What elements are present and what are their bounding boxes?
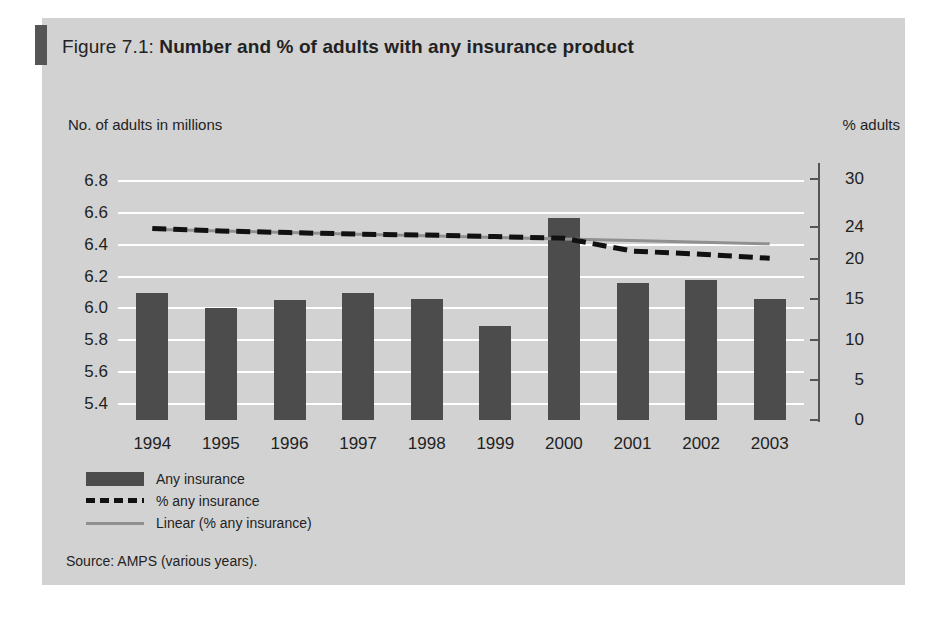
right-axis-tick-mark bbox=[810, 339, 818, 341]
legend-label: % any insurance bbox=[156, 493, 260, 509]
legend-swatch bbox=[86, 498, 144, 503]
left-axis-tick-label: 6.6 bbox=[84, 203, 108, 223]
x-axis-tick-label: 1994 bbox=[133, 434, 171, 454]
left-axis-tick-label: 6.2 bbox=[84, 267, 108, 287]
x-axis-tick-label: 2002 bbox=[682, 434, 720, 454]
x-axis-tick-label: 2001 bbox=[614, 434, 652, 454]
right-axis-tick-mark bbox=[810, 379, 818, 381]
right-axis-tick-label: 5 bbox=[830, 370, 864, 390]
legend-swatch bbox=[86, 472, 144, 486]
legend-label: Any insurance bbox=[156, 471, 245, 487]
right-axis-tick-mark bbox=[810, 226, 818, 228]
figure-page: Figure 7.1: Number and % of adults with … bbox=[0, 0, 938, 620]
legend-key-dashed-line bbox=[86, 490, 148, 512]
legend-key-bar bbox=[86, 468, 148, 490]
x-axis-tick-label: 1998 bbox=[408, 434, 446, 454]
right-axis-tick-label: 24 bbox=[830, 217, 864, 237]
figure-caption: Figure 7.1: Number and % of adults with … bbox=[62, 36, 634, 58]
left-axis-tick-label: 6.8 bbox=[84, 171, 108, 191]
legend-label: Linear (% any insurance) bbox=[156, 515, 312, 531]
x-axis-tick-label: 1999 bbox=[476, 434, 514, 454]
x-axis-tick-label: 1995 bbox=[202, 434, 240, 454]
x-axis-tick-label: 1997 bbox=[339, 434, 377, 454]
figure-caption-title: Number and % of adults with any insuranc… bbox=[159, 36, 634, 57]
legend-swatch bbox=[86, 522, 144, 525]
left-axis-tick-label: 5.4 bbox=[84, 394, 108, 414]
right-axis-tick-label: 10 bbox=[830, 330, 864, 350]
right-axis-tick-mark bbox=[810, 178, 818, 180]
right-axis-tick-label: 0 bbox=[830, 410, 864, 430]
plot-area: 6.86.66.46.26.05.85.65.4 302420151050 19… bbox=[118, 165, 804, 420]
right-axis-tick-label: 20 bbox=[830, 249, 864, 269]
left-axis-tick-label: 5.6 bbox=[84, 362, 108, 382]
legend: Any insurance% any insuranceLinear (% an… bbox=[86, 468, 312, 534]
x-axis-tick-label: 2003 bbox=[751, 434, 789, 454]
legend-item: Any insurance bbox=[86, 468, 312, 490]
legend-item: Linear (% any insurance) bbox=[86, 512, 312, 534]
legend-key-solid-line bbox=[86, 512, 148, 534]
right-axis-line bbox=[818, 163, 820, 422]
left-axis-tick-label: 5.8 bbox=[84, 330, 108, 350]
line-series-svg bbox=[118, 165, 804, 420]
left-axis-tick-label: 6.0 bbox=[84, 298, 108, 318]
left-axis-title: No. of adults in millions bbox=[68, 116, 222, 133]
right-axis-tick-mark bbox=[810, 258, 818, 260]
right-axis-tick-label: 30 bbox=[830, 169, 864, 189]
x-axis-tick-label: 2000 bbox=[545, 434, 583, 454]
legend-item: % any insurance bbox=[86, 490, 312, 512]
figure-caption-label: Figure 7.1: bbox=[62, 36, 159, 57]
x-axis-tick-label: 1996 bbox=[271, 434, 309, 454]
caption-marker-icon bbox=[35, 25, 47, 65]
right-axis-tick-mark bbox=[810, 298, 818, 300]
right-axis-tick-label: 15 bbox=[830, 289, 864, 309]
right-axis-tick-mark bbox=[810, 419, 818, 421]
right-axis-title: % adults bbox=[842, 116, 900, 133]
source-note: Source: AMPS (various years). bbox=[66, 553, 257, 569]
pct-any-insurance-line bbox=[152, 229, 769, 259]
left-axis-tick-label: 6.4 bbox=[84, 235, 108, 255]
